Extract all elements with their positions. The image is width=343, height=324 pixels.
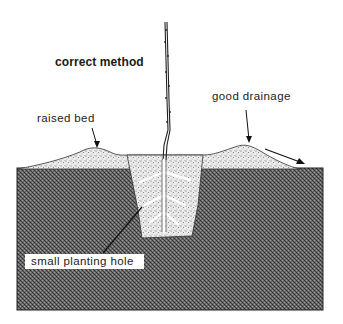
good-drainage-label: good drainage — [212, 90, 291, 102]
plant-stem — [163, 22, 171, 160]
diagram-title: correct method — [55, 55, 144, 69]
raised-bed-arrow — [92, 128, 100, 148]
planting-diagram: correct method raised bed good drainage … — [0, 0, 343, 324]
diagram-illustration — [0, 0, 343, 324]
good-drainage-arrow-down — [246, 110, 252, 143]
raised-bed-label: raised bed — [37, 112, 95, 124]
small-planting-hole-label: small planting hole — [25, 254, 144, 269]
